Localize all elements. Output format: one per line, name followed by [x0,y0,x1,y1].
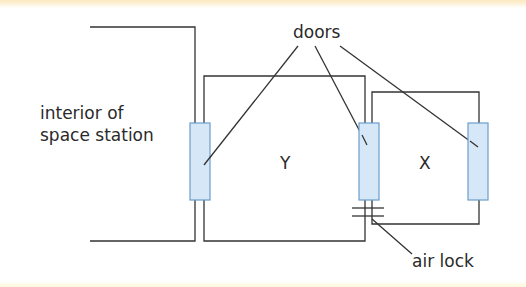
chamber-x-wall-top [372,92,479,123]
chamber-y-wall-bottom [204,200,365,241]
air-lock-label: air lock [412,251,474,271]
interior-label-line1: interior of [40,103,124,123]
doors-label: doors [293,22,340,42]
interior-label-line2: space station [40,125,154,145]
station-wall-bottom [90,200,195,241]
chamber-y-wall-top [204,76,365,123]
doors-leader-left [204,46,298,165]
chamber-x-label: X [419,153,431,173]
chamber-x-wall-bottom [372,200,479,224]
door-y-to-x [359,123,379,200]
door-x-to-space [468,123,488,200]
chamber-y-label: Y [280,153,290,173]
